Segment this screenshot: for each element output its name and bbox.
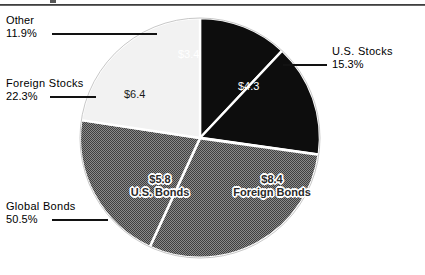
slice-name-foreign-bonds: Foreign Bonds bbox=[214, 186, 330, 199]
slice-value-us-bonds: $5.8 bbox=[112, 173, 208, 186]
callout-label-us-stocks: U.S. Stocks 15.3% bbox=[332, 45, 393, 70]
slice-name-us-bonds: U.S. Bonds bbox=[112, 186, 208, 199]
callout-foreign-stocks-name: Foreign Stocks bbox=[6, 77, 84, 90]
slice-label-us-bonds: $5.8 U.S. Bonds bbox=[112, 173, 208, 198]
slice-label-foreign-bonds: $8.4 Foreign Bonds bbox=[214, 173, 330, 198]
pie-chart bbox=[0, 0, 425, 275]
leader-line-foreign-stocks bbox=[50, 96, 96, 98]
callout-us-stocks-percent: 15.3% bbox=[332, 58, 393, 71]
pie-slice-foreign-stocks bbox=[81, 18, 200, 138]
callout-global-bonds-name: Global Bonds bbox=[6, 200, 76, 213]
leader-line-global-bonds bbox=[52, 219, 108, 221]
callout-label-other: Other 11.9% bbox=[6, 14, 37, 39]
slice-value-foreign-bonds: $8.4 bbox=[214, 173, 330, 186]
slice-value-foreign-stocks: $6.4 bbox=[124, 88, 145, 101]
callout-us-stocks-name: U.S. Stocks bbox=[332, 45, 393, 58]
callout-other-name: Other bbox=[6, 14, 37, 27]
leader-line-us-stocks bbox=[283, 64, 327, 66]
callout-label-foreign-stocks: Foreign Stocks 22.3% bbox=[6, 77, 84, 102]
chart-canvas: Other 11.9% Foreign Stocks 22.3% Global … bbox=[0, 0, 425, 275]
slice-value-other: $3.4 bbox=[178, 48, 199, 61]
callout-other-percent: 11.9% bbox=[6, 27, 37, 40]
leader-line-other bbox=[52, 33, 157, 35]
slice-value-us-stocks: $4.3 bbox=[238, 80, 259, 93]
callout-label-global-bonds: Global Bonds 50.5% bbox=[6, 200, 76, 225]
